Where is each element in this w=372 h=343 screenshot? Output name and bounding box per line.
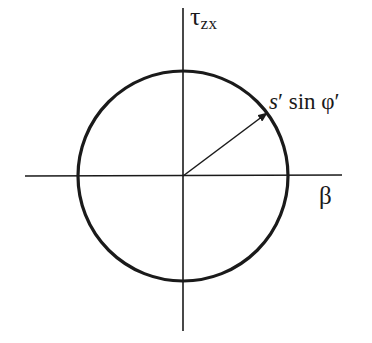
radius-label-expression: sin φ′ <box>283 89 340 114</box>
radius-arrow <box>183 113 267 176</box>
mohr-circle-figure <box>0 0 372 343</box>
vertical-axis-label: τzx <box>190 4 218 30</box>
radius-label: s′ sin φ′ <box>269 90 340 113</box>
horizontal-axis-label: β <box>319 183 332 208</box>
radius-label-variable: s <box>269 89 278 114</box>
diagram-canvas: τzx β s′ sin φ′ <box>0 0 372 343</box>
tau-subscript: zx <box>200 14 217 33</box>
tau-symbol: τ <box>190 2 200 31</box>
